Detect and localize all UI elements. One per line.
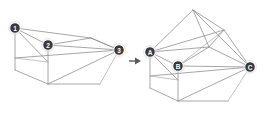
left-edge-bottom-right-diag <box>100 50 119 84</box>
right-edge-mid-band <box>150 67 250 76</box>
left-node-2[interactable]: 2 <box>42 39 55 52</box>
right-node-b[interactable]: B <box>172 60 185 73</box>
left-node-1-label: 1 <box>13 25 17 32</box>
left-edge-lower-to-n3 <box>48 50 119 84</box>
left-edge-mid-band <box>15 50 119 58</box>
left-edge-top-front <box>15 28 91 38</box>
right-node-a-label: A <box>148 49 153 56</box>
left-edge-left-bottom-diag <box>15 70 48 84</box>
left-node-1[interactable]: 1 <box>9 22 22 35</box>
right-edge-apex-to-C <box>193 10 250 67</box>
left-figure-group: 1 2 3 <box>9 22 126 84</box>
right-figure-group: A B C <box>144 10 257 101</box>
left-node-3[interactable]: 3 <box>113 44 126 57</box>
right-edge-left-bottom-diag <box>150 88 178 101</box>
right-edge-backright-to-C <box>224 30 250 67</box>
right-node-b-label: B <box>176 63 181 70</box>
right-edge-mid-left <box>150 76 178 80</box>
left-node-3-label: 3 <box>117 47 121 54</box>
right-edge-B-to-C <box>178 66 250 67</box>
transform-arrow <box>129 58 141 65</box>
right-node-a[interactable]: A <box>144 46 157 59</box>
right-edge-top-back <box>209 47 250 67</box>
wireframe-diagram: 1 2 3 <box>0 0 267 123</box>
diagram-canvas: 1 2 3 <box>0 0 267 123</box>
left-edge-mid-left <box>15 58 48 62</box>
left-node-2-label: 2 <box>46 42 50 49</box>
right-node-c-label: C <box>248 64 253 71</box>
right-node-c[interactable]: C <box>244 61 257 74</box>
